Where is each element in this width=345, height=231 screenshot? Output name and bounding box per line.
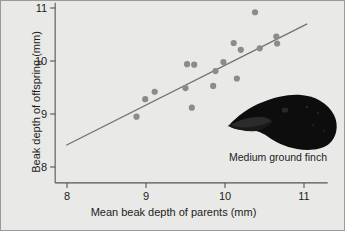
- data-point: [220, 59, 226, 65]
- data-point: [231, 40, 237, 46]
- data-point: [210, 83, 216, 89]
- x-tick-label: 9: [143, 190, 149, 202]
- data-point: [152, 89, 158, 95]
- data-point: [142, 96, 148, 102]
- data-point: [273, 34, 279, 40]
- data-point: [133, 114, 139, 120]
- data-point: [212, 68, 218, 74]
- x-tick-label: 8: [64, 190, 70, 202]
- y-axis-title: Beak depth of offspring (mm): [30, 7, 42, 197]
- data-point: [274, 40, 280, 46]
- data-point: [238, 47, 244, 53]
- figure-panel: 891011891011 Medium ground finch Mean be…: [0, 0, 345, 231]
- x-tick-label: 11: [298, 190, 309, 202]
- data-point: [257, 45, 263, 51]
- data-point: [189, 105, 195, 111]
- medium-ground-finch-silhouette: [223, 85, 341, 151]
- data-point: [234, 75, 240, 81]
- x-axis-title: Mean beak depth of parents (mm): [1, 206, 345, 218]
- data-point: [182, 85, 188, 91]
- data-point: [252, 9, 258, 15]
- x-tick-label: 10: [219, 190, 231, 202]
- data-point: [191, 62, 197, 68]
- finch-caption: Medium ground finch: [229, 151, 327, 163]
- data-point: [184, 61, 190, 67]
